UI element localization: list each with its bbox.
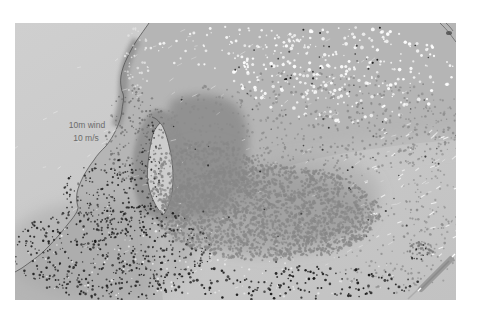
wind-dust-map: 10m wind 10 m/s (0, 0, 479, 314)
figure-canvas: 10m wind 10 m/s (0, 0, 479, 314)
wind-legend-line2: 10 m/s (73, 133, 99, 143)
wind-legend-line1: 10m wind (69, 120, 106, 130)
